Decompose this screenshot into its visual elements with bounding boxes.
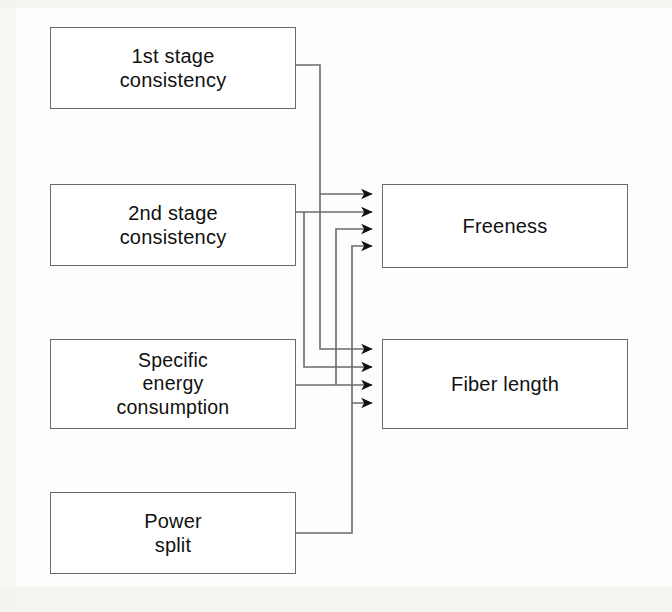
wire-1st-stage-to-fiber-length [320, 194, 372, 349]
diagram-canvas: 1st stage consistency 2nd stage consiste… [0, 0, 672, 612]
wire-power-split-to-fiber-length [296, 403, 372, 533]
wire-2nd-stage-to-fiber-length [304, 212, 372, 367]
node-power-split[interactable]: Power split [50, 492, 296, 574]
node-first-stage-consistency[interactable]: 1st stage consistency [50, 27, 296, 109]
node-second-stage-consistency[interactable]: 2nd stage consistency [50, 184, 296, 266]
wire-1st-stage-to-freeness [296, 65, 372, 194]
node-specific-energy-consumption[interactable]: Specific energy consumption [50, 339, 296, 429]
wire-sec-to-freeness [336, 229, 372, 385]
node-freeness[interactable]: Freeness [382, 184, 628, 268]
node-fiber-length[interactable]: Fiber length [382, 339, 628, 429]
wire-power-split-to-freeness [352, 246, 372, 403]
